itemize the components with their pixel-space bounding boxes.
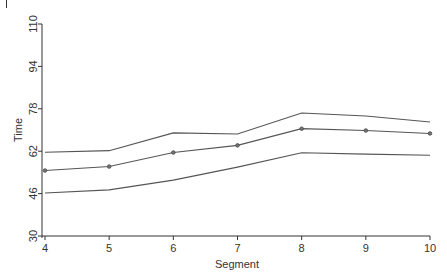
data-point [428, 132, 432, 136]
data-point [107, 165, 111, 169]
x-tick-label: 5 [106, 242, 112, 254]
y-tick-label: 78 [27, 103, 39, 115]
y-tick-label: 94 [27, 60, 39, 72]
x-tick-label: 8 [299, 242, 305, 254]
y-tick-label: 110 [27, 15, 39, 33]
x-tick-label: 4 [42, 242, 48, 254]
y-axis: 3046627894110 [27, 15, 42, 242]
x-tick-label: 6 [170, 242, 176, 254]
y-tick-label: 46 [27, 187, 39, 199]
y-axis-title: Time [12, 118, 24, 142]
data-point [43, 169, 47, 173]
series-line-lower-bound [45, 153, 430, 193]
line-chart: 3046627894110 45678910 Segment Time [0, 0, 447, 279]
x-axis-title: Segment [215, 258, 259, 270]
x-tick-label: 7 [234, 242, 240, 254]
x-tick-label: 10 [424, 242, 436, 254]
x-axis: 45678910 [42, 236, 436, 254]
y-tick-label: 30 [27, 230, 39, 242]
data-point [364, 129, 368, 133]
series-layer [43, 113, 432, 193]
data-point [236, 144, 240, 148]
data-point [172, 151, 176, 155]
data-point [300, 127, 304, 131]
series-line-estimate [45, 129, 430, 171]
x-tick-label: 9 [363, 242, 369, 254]
y-tick-label: 62 [27, 145, 39, 157]
